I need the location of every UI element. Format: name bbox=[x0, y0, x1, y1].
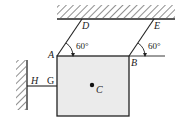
wall-support bbox=[16, 60, 27, 110]
statics-diagram: D E A B C G H 60° 60° bbox=[0, 0, 183, 126]
label-D: D bbox=[81, 20, 90, 31]
label-E: E bbox=[153, 20, 160, 31]
angle-label-A: 60° bbox=[76, 41, 89, 51]
center-of-mass-dot bbox=[90, 83, 94, 87]
angle-label-B: 60° bbox=[148, 41, 161, 51]
label-A: A bbox=[47, 49, 55, 60]
label-B: B bbox=[131, 57, 137, 68]
label-C: C bbox=[96, 84, 103, 95]
label-G: G bbox=[47, 75, 54, 86]
label-H: H bbox=[30, 75, 39, 86]
ceiling-support bbox=[57, 5, 175, 19]
